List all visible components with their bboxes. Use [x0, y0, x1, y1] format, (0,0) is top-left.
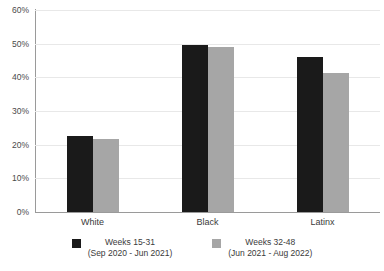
legend-label-series-1-line1: Weeks 15-31: [88, 237, 173, 248]
x-axis-category-label: Latinx: [310, 216, 334, 228]
legend-item-series-1[interactable]: Weeks 15-31 (Sep 2020 - Jun 2021): [72, 237, 173, 259]
legend-label-series-2: Weeks 32-48 (Jun 2021 - Aug 2022): [228, 237, 312, 259]
chart-legend: Weeks 15-31 (Sep 2020 - Jun 2021) Weeks …: [0, 237, 384, 259]
legend-swatch-icon-series-2: [212, 239, 221, 248]
legend-label-series-2-line2: (Jun 2021 - Aug 2022): [228, 248, 312, 259]
bar[interactable]: [208, 47, 234, 212]
bar[interactable]: [182, 45, 208, 212]
bar-group: [35, 10, 150, 212]
legend-label-series-1: Weeks 15-31 (Sep 2020 - Jun 2021): [88, 237, 173, 259]
bar[interactable]: [323, 73, 349, 212]
bar[interactable]: [297, 57, 323, 212]
legend-swatch-icon-series-1: [72, 239, 81, 248]
bar-chart: 0%10%20%30%40%50%60% WhiteBlackLatinx We…: [0, 0, 384, 271]
plot-area: [35, 10, 380, 212]
y-axis-tick-label: 30%: [0, 107, 29, 116]
x-axis-category-label: Black: [196, 216, 218, 228]
bar[interactable]: [93, 139, 119, 212]
legend-label-series-1-line2: (Sep 2020 - Jun 2021): [88, 248, 173, 259]
y-axis-tick-label: 0%: [0, 208, 29, 217]
y-axis-tick-label: 40%: [0, 73, 29, 82]
bar-group: [150, 10, 265, 212]
y-axis-tick-labels: 0%10%20%30%40%50%60%: [0, 10, 31, 212]
legend-item-series-2[interactable]: Weeks 32-48 (Jun 2021 - Aug 2022): [212, 237, 312, 259]
legend-label-series-2-line1: Weeks 32-48: [228, 237, 312, 248]
x-axis-line: [35, 212, 380, 213]
y-axis-tick-label: 10%: [0, 174, 29, 183]
y-axis-tick-label: 20%: [0, 140, 29, 149]
x-axis-category-label: White: [81, 216, 104, 228]
x-axis-category-labels: WhiteBlackLatinx: [35, 216, 380, 232]
y-axis-tick-label: 50%: [0, 39, 29, 48]
y-axis-tick-label: 60%: [0, 6, 29, 15]
bar[interactable]: [67, 136, 93, 212]
bar-group: [265, 10, 380, 212]
